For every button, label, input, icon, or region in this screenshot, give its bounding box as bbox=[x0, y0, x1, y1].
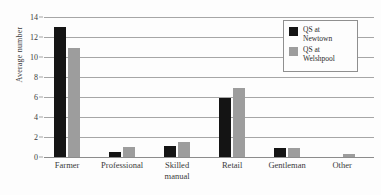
x-axis-category-label: Other bbox=[315, 160, 370, 171]
legend-swatch-icon bbox=[289, 27, 298, 36]
x-axis-category-label: Farmer bbox=[40, 160, 95, 171]
y-tick-label: 8 bbox=[34, 73, 38, 82]
bar bbox=[178, 142, 190, 157]
y-tick-mark bbox=[39, 157, 43, 158]
legend-label: QS at Welshpool bbox=[303, 45, 335, 63]
bar bbox=[123, 147, 135, 157]
bar bbox=[219, 98, 231, 157]
y-tick-mark bbox=[39, 17, 43, 18]
x-axis-category-label: Skilled manual bbox=[150, 160, 205, 182]
y-axis-title: Average number bbox=[15, 0, 24, 110]
gridline bbox=[44, 157, 374, 158]
x-axis-category-label: Professional bbox=[95, 160, 150, 171]
legend: QS at Newtown QS at Welshpool bbox=[283, 20, 358, 72]
x-axis-category-label: Retail bbox=[205, 160, 260, 171]
bar bbox=[274, 148, 286, 157]
y-tick-label: 12 bbox=[30, 33, 38, 42]
bar bbox=[109, 152, 121, 157]
legend-label: QS at Newtown bbox=[303, 25, 332, 43]
y-tick-label: 0 bbox=[34, 153, 38, 162]
y-tick-mark bbox=[39, 77, 43, 78]
y-tick-label: 14 bbox=[30, 13, 38, 22]
x-axis-labels: FarmerProfessionalSkilled manualRetailGe… bbox=[44, 160, 374, 194]
y-tick-mark bbox=[39, 97, 43, 98]
y-tick-label: 2 bbox=[34, 133, 38, 142]
x-axis-category-label: Gentleman bbox=[260, 160, 315, 171]
legend-swatch-icon bbox=[289, 47, 298, 56]
bar-chart: Average number 02468101214 FarmerProfess… bbox=[0, 0, 381, 195]
legend-item[interactable]: QS at Welshpool bbox=[289, 45, 353, 63]
y-tick-label: 10 bbox=[30, 53, 38, 62]
y-tick-label: 6 bbox=[34, 93, 38, 102]
bar bbox=[68, 48, 80, 157]
bar bbox=[164, 146, 176, 157]
y-tick-mark bbox=[39, 37, 43, 38]
y-tick-label: 4 bbox=[34, 113, 38, 122]
bar bbox=[54, 27, 66, 157]
y-tick-mark bbox=[39, 57, 43, 58]
legend-item[interactable]: QS at Newtown bbox=[289, 25, 353, 43]
y-tick-mark bbox=[39, 137, 43, 138]
bar bbox=[233, 88, 245, 157]
bar bbox=[288, 148, 300, 157]
y-tick-mark bbox=[39, 117, 43, 118]
bar bbox=[343, 154, 355, 158]
